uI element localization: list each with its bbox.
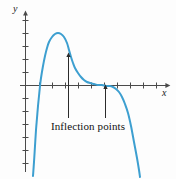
inflection-points-label: Inflection points [0,120,176,132]
y-axis-label: y [13,4,17,14]
plot-canvas [0,0,176,179]
function-curve [33,33,140,177]
inflection-points-figure: y x Inflection points [0,0,176,179]
x-axis-label: x [162,88,166,98]
